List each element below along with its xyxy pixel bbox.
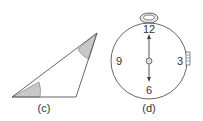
angle-shade-top (78, 33, 97, 59)
angle-shade-left (12, 82, 41, 97)
caption-d: (d) (142, 102, 155, 114)
dial-number-3: 3 (177, 55, 183, 67)
crown-ring-inner (144, 15, 155, 20)
arrow-down-icon (147, 77, 151, 82)
diagram-canvas: (c) 12 3 6 9 (d) (0, 0, 203, 121)
side-button (186, 52, 190, 65)
dial-number-9: 9 (116, 55, 122, 67)
triangle-outline (12, 33, 97, 97)
dial-number-12: 12 (143, 23, 155, 35)
center-pivot (146, 58, 152, 64)
dial-number-6: 6 (146, 84, 152, 96)
caption-c: (c) (38, 102, 51, 114)
figure-d-stopwatch: 12 3 6 9 (d) (111, 13, 190, 114)
figure-c-triangle: (c) (12, 33, 97, 114)
